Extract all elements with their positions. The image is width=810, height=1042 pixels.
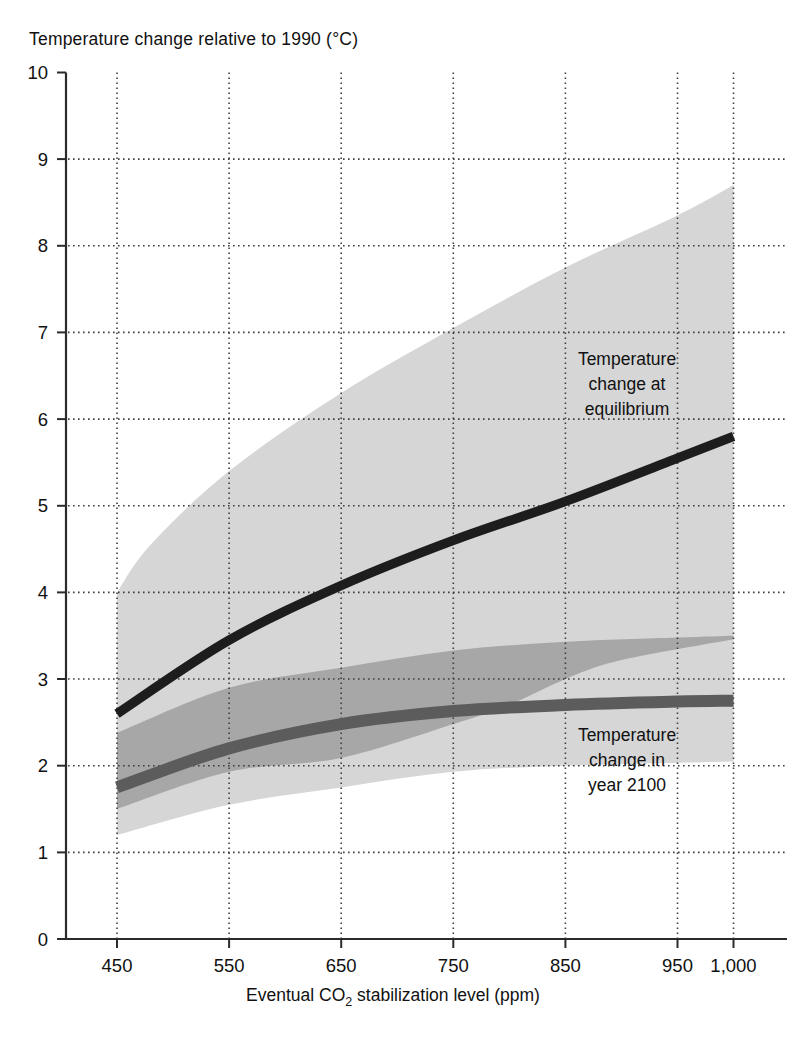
annotation-year-2100: Temperature change in year 2100	[578, 723, 676, 798]
y-tick-label-5: 5	[38, 495, 48, 516]
annotation-equilibrium-line1: Temperature	[578, 347, 676, 372]
x-tick-label-550: 550	[214, 955, 245, 976]
annotation-equilibrium-line2: change at	[578, 372, 676, 397]
y-tick-label-7: 7	[38, 322, 48, 343]
y-tick-label-1: 1	[38, 842, 48, 863]
chart-title: Temperature change relative to 1990 (°C)	[29, 29, 358, 50]
annotation-year-2100-line2: change in	[578, 748, 676, 773]
chart-area: 0123456789104505506507508509501,000 Temp…	[0, 0, 810, 1042]
x-tick-label-850: 850	[550, 955, 581, 976]
x-tick-label-650: 650	[326, 955, 357, 976]
annotation-equilibrium-line3: equilibrium	[578, 397, 676, 422]
y-tick-label-6: 6	[38, 409, 48, 430]
y-tick-label-0: 0	[38, 929, 48, 950]
y-tick-label-8: 8	[38, 235, 48, 256]
y-tick-label-2: 2	[38, 755, 48, 776]
annotation-equilibrium: Temperature change at equilibrium	[578, 347, 676, 422]
x-axis-label: Eventual CO2 stabilization level (ppm)	[246, 985, 540, 1006]
x-tick-label-750: 750	[438, 955, 469, 976]
y-tick-label-4: 4	[38, 582, 48, 603]
x-axis-label-post: stabilization level (ppm)	[352, 985, 540, 1005]
x-axis-label-pre: Eventual CO	[246, 985, 345, 1005]
annotation-year-2100-line1: Temperature	[578, 723, 676, 748]
y-tick-label-3: 3	[38, 669, 48, 690]
annotation-year-2100-line3: year 2100	[578, 773, 676, 798]
chart-canvas: 0123456789104505506507508509501,000	[0, 0, 810, 1042]
x-tick-label-1000: 1,000	[710, 955, 756, 976]
x-tick-label-950: 950	[662, 955, 693, 976]
co2-stabilization-chart: { "title": "Temperature change relative …	[0, 0, 810, 1042]
y-tick-label-10: 10	[27, 62, 48, 83]
y-tick-label-9: 9	[38, 149, 48, 170]
x-tick-label-450: 450	[102, 955, 133, 976]
